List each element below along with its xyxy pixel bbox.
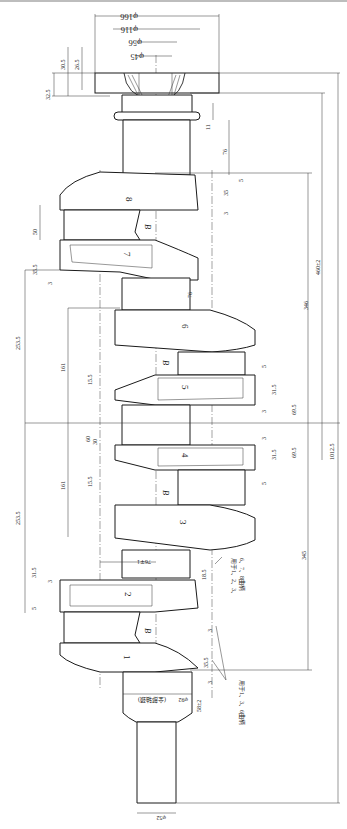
crankpin-5-6: B [161, 352, 245, 375]
svg-text:50: 50 [32, 229, 38, 235]
svg-text:11: 11 [205, 124, 211, 130]
svg-text:B: B [143, 224, 153, 229]
journal-mid-2 [122, 405, 190, 445]
svg-text:3: 3 [47, 580, 53, 583]
svg-text:φ116: φ116 [121, 25, 138, 35]
svg-text:32.5: 32.5 [45, 90, 51, 101]
throw-5: 5 [115, 375, 255, 405]
svg-text:(全部轴颈): (全部轴颈) [138, 696, 166, 704]
nose [137, 722, 176, 803]
throw-1: 1 [60, 643, 198, 672]
svg-text:76: 76 [222, 149, 228, 155]
svg-text:253.5: 253.5 [15, 337, 21, 351]
svg-text:3: 3 [261, 437, 267, 440]
dim-right-long: 460±2 346 1012.5 345 [176, 73, 340, 803]
svg-text:3: 3 [47, 282, 53, 285]
svg-text:5: 5 [261, 365, 267, 368]
throw-4: 4 [115, 445, 255, 470]
svg-text:B: B [161, 360, 171, 365]
throw-3: 3 [115, 505, 255, 550]
svg-text:35: 35 [223, 190, 229, 196]
svg-text:31.5: 31.5 [31, 568, 37, 579]
svg-text:4: 4 [180, 453, 190, 458]
svg-text:3: 3 [207, 681, 213, 684]
svg-text:φ56: φ56 [129, 38, 142, 48]
svg-text:31.5: 31.5 [271, 450, 277, 461]
crankpin-7-8: B [64, 210, 153, 240]
svg-text:30.5: 30.5 [60, 60, 66, 71]
svg-text:60: 60 [85, 436, 91, 442]
svg-text:5: 5 [238, 179, 244, 182]
throw-7: 7 [60, 240, 198, 280]
svg-text:6: 6 [180, 324, 190, 329]
svg-text:1012.5: 1012.5 [329, 444, 335, 461]
crankpin-3-4: B [161, 470, 245, 505]
svg-text:15.5: 15.5 [87, 477, 93, 488]
svg-text:φ45: φ45 [131, 52, 144, 62]
svg-text:69.5: 69.5 [291, 448, 297, 459]
notes: 用于1、2、3、 6、7、8曲柄 用于1、3、6曲柄 [212, 557, 246, 725]
svg-text:345: 345 [301, 551, 307, 560]
crankpin-1-2: B [64, 612, 153, 643]
svg-text:18.5: 18.5 [201, 570, 207, 581]
svg-text:φ92: φ92 [179, 697, 188, 703]
svg-text:15.5: 15.5 [87, 375, 93, 386]
svg-text:76∓1: 76∓1 [137, 559, 151, 565]
svg-text:31.5: 31.5 [271, 385, 277, 396]
svg-text:69.5: 69.5 [291, 405, 297, 416]
svg-text:6、7、8曲柄: 6、7、8曲柄 [238, 558, 246, 591]
svg-text:26.5: 26.5 [74, 60, 80, 71]
svg-text:7: 7 [122, 252, 132, 257]
front-journal [123, 672, 192, 722]
svg-text:35.5: 35.5 [203, 658, 209, 669]
svg-text:8: 8 [124, 197, 134, 202]
svg-text:3: 3 [261, 410, 267, 413]
journal-mid-1 [122, 278, 190, 310]
svg-text:B: B [143, 628, 153, 633]
throw-8: 8 [60, 172, 198, 210]
svg-text:φ166: φ166 [120, 12, 138, 22]
dim-right-mid: 5 31.5 69.5 3 3 31.5 69.5 5 [261, 365, 297, 485]
svg-text:58±2: 58±2 [196, 700, 202, 712]
svg-text:用于1、3、6曲柄: 用于1、3、6曲柄 [238, 680, 246, 725]
svg-text:5: 5 [31, 607, 37, 610]
svg-text:30: 30 [92, 439, 98, 445]
svg-text:φ52: φ52 [157, 815, 166, 821]
svg-text:5: 5 [261, 482, 267, 485]
svg-text:460±2: 460±2 [315, 260, 321, 275]
svg-text:2: 2 [123, 592, 133, 597]
svg-text:3: 3 [178, 520, 188, 525]
svg-text:76: 76 [187, 292, 193, 298]
svg-text:用于1、2、3、: 用于1、2、3、 [230, 558, 237, 597]
dim-top-diameters: φ166 φ116 φ56 φ45 [95, 12, 219, 73]
svg-text:3: 3 [207, 629, 213, 632]
svg-text:3: 3 [223, 212, 229, 215]
svg-text:161: 161 [60, 363, 66, 372]
svg-text:5: 5 [180, 385, 190, 390]
svg-text:253.5: 253.5 [15, 512, 21, 526]
svg-text:161: 161 [60, 481, 66, 490]
journal-mid-3 [122, 550, 190, 578]
throw-2: 2 [60, 580, 198, 612]
rear-journal [114, 95, 200, 175]
crankshaft-drawing: 8 B 7 6 B 5 4 B 3 [0, 0, 347, 829]
throw-6: 6 [115, 310, 255, 352]
svg-text:1: 1 [122, 655, 132, 660]
svg-text:346: 346 [303, 301, 309, 310]
svg-text:B: B [161, 490, 171, 495]
